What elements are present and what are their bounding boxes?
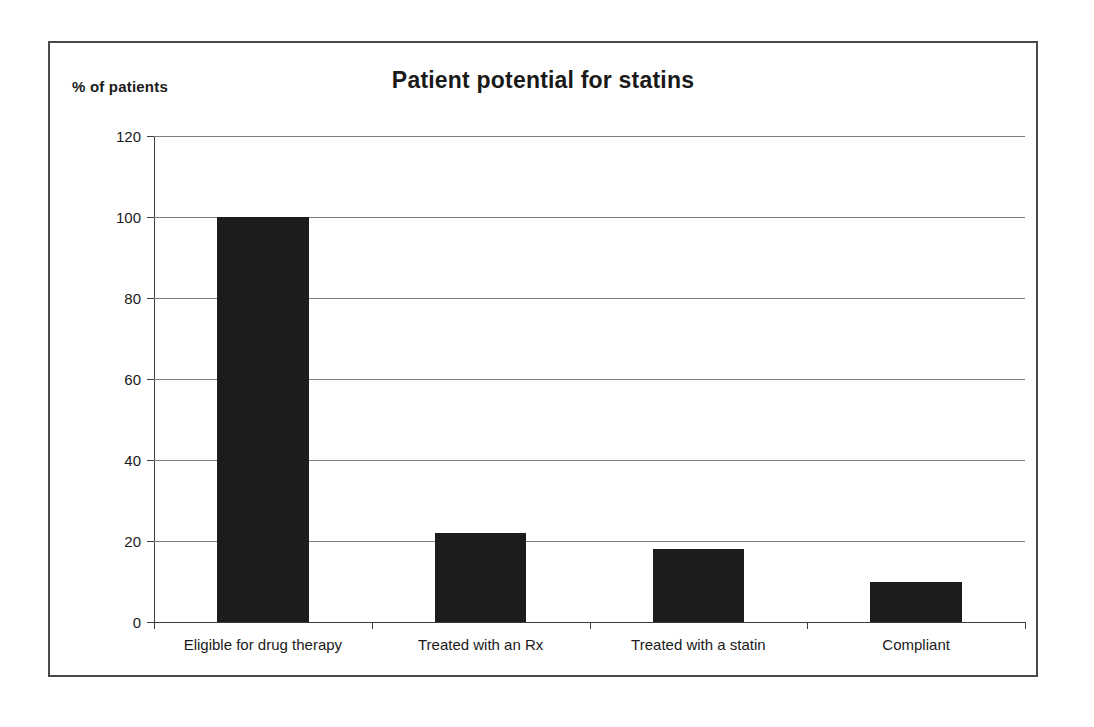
y-axis-tick-mark [147, 460, 154, 461]
x-axis-tick-mark [372, 622, 373, 629]
chart-title: Patient potential for statins [50, 67, 1036, 94]
x-axis-category-label: Eligible for drug therapy [184, 636, 342, 653]
x-axis-category-label: Compliant [882, 636, 950, 653]
x-axis-category-label: Treated with a statin [631, 636, 766, 653]
y-axis-tick-mark [147, 217, 154, 218]
y-axis-tick-mark [147, 298, 154, 299]
y-axis-tick-label: 40 [124, 452, 141, 469]
y-axis-tick-label: 120 [116, 128, 141, 145]
y-axis-tick-mark [147, 622, 154, 623]
y-axis-tick-label: 80 [124, 290, 141, 307]
x-axis-tick-mark [154, 622, 155, 629]
bar [435, 533, 526, 622]
y-axis-tick-mark [147, 136, 154, 137]
gridline [154, 136, 1025, 137]
y-axis-tick-mark [147, 541, 154, 542]
bar [653, 549, 744, 622]
x-axis-tick-mark [590, 622, 591, 629]
y-axis-tick-label: 100 [116, 209, 141, 226]
y-axis-tick-label: 60 [124, 371, 141, 388]
x-axis-tick-mark [807, 622, 808, 629]
y-axis-tick-label: 20 [124, 533, 141, 550]
bar [870, 582, 961, 623]
bar [217, 217, 308, 622]
y-axis-tick-label: 0 [133, 614, 141, 631]
chart-frame: % of patients Patient potential for stat… [48, 41, 1038, 677]
plot-area: 020406080100120 Eligible for drug therap… [154, 136, 1025, 622]
x-axis-category-label: Treated with an Rx [418, 636, 543, 653]
y-axis-tick-mark [147, 379, 154, 380]
x-axis-tick-mark [1025, 622, 1026, 629]
